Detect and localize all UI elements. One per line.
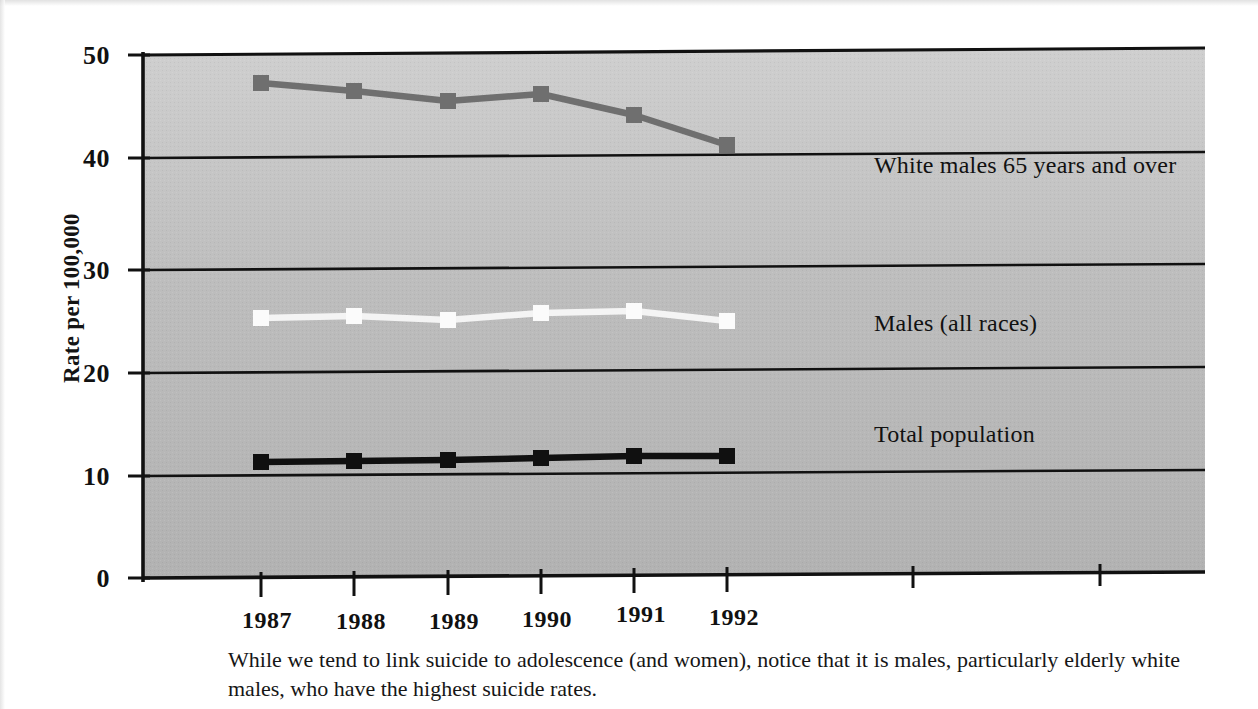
y-tick-label-0: 0 [58, 564, 110, 594]
x-tick-label-1987: 1987 [222, 607, 312, 634]
x-tick-label-1992: 1992 [689, 604, 779, 631]
y-tick-label-30: 30 [58, 256, 110, 286]
y-axis-title: Rate per 100,000 [59, 168, 85, 428]
y-tick-label-20: 20 [58, 359, 110, 389]
y-tick-label-40: 40 [58, 144, 110, 174]
figure-caption: While we tend to link suicide to adolesc… [228, 645, 1180, 703]
series-label-males-all-races: Males (all races) [874, 310, 1037, 337]
x-tick-label-1991: 1991 [596, 601, 686, 628]
x-tick-label-1988: 1988 [316, 608, 406, 635]
y-tick-label-50: 50 [58, 41, 110, 71]
series-label-total-population: Total population [874, 421, 1035, 448]
y-tick-label-10: 10 [58, 462, 110, 492]
x-tick-label-1989: 1989 [409, 608, 499, 635]
line-chart-figure: Rate per 100,000 50 40 30 20 10 0 1987 1… [0, 0, 1258, 709]
figure-caption-line-1: While we tend to link suicide to adolesc… [228, 647, 1058, 672]
series-label-white-males-65-and-over: White males 65 years and over [874, 152, 1176, 179]
x-tick-label-1990: 1990 [502, 606, 592, 633]
